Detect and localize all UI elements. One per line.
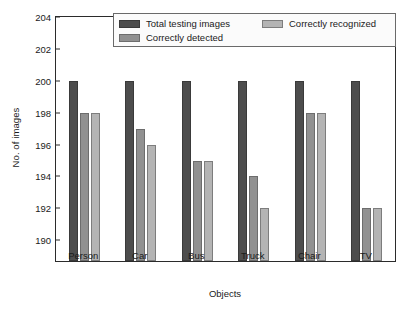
- legend-swatch-icon: [262, 20, 283, 28]
- y-axis-label: No. of images: [10, 83, 21, 193]
- bar: [182, 81, 191, 261]
- bar: [193, 161, 202, 261]
- bar: [125, 81, 134, 261]
- legend-label: Correctly detected: [146, 32, 223, 43]
- y-axis-tick-mark: [56, 144, 60, 145]
- y-axis-tick-label: 194: [35, 171, 51, 182]
- y-axis-tick-mark: [56, 208, 60, 209]
- y-axis-tick-label: 190: [35, 235, 51, 246]
- legend-label: Total testing images: [146, 18, 230, 29]
- y-axis-tick-label: 202: [35, 43, 51, 54]
- y-axis-tick-label: 200: [35, 75, 51, 86]
- x-axis-tick-label: Chair: [298, 250, 321, 261]
- bar: [373, 208, 382, 261]
- y-axis-tick-label: 196: [35, 139, 51, 150]
- bar: [295, 81, 304, 261]
- y-axis-tick-label: 192: [35, 203, 51, 214]
- x-axis-tick-label: Bus: [188, 250, 204, 261]
- x-axis-tick-label: Truck: [241, 250, 264, 261]
- y-axis-tick-mark: [56, 80, 60, 81]
- y-axis-tick-label: 198: [35, 107, 51, 118]
- legend-entry-correctly-detected: Correctly detected: [119, 32, 223, 43]
- x-axis-tick-label: Person: [68, 250, 98, 261]
- y-axis-tick-mark: [56, 112, 60, 113]
- y-axis-tick-mark: [56, 176, 60, 177]
- bar: [306, 113, 315, 261]
- x-axis-tick-label: Car: [132, 250, 147, 261]
- bar: [147, 145, 156, 261]
- legend-swatch-icon: [119, 20, 140, 28]
- x-axis-label: Objects: [55, 288, 395, 299]
- bar: [69, 81, 78, 261]
- chart-legend: Total testing images Correctly detected …: [113, 13, 396, 47]
- bar: [317, 113, 326, 261]
- bar: [204, 161, 213, 261]
- bar: [351, 81, 360, 261]
- bar: [80, 113, 89, 261]
- y-axis-tick-mark: [56, 17, 60, 18]
- y-axis-tick-mark: [56, 240, 60, 241]
- bar: [136, 129, 145, 261]
- legend-label: Correctly recognized: [289, 18, 376, 29]
- bar-chart-figure: No. of images Objects 190192194196198200…: [0, 0, 410, 309]
- plot-area: 190192194196198200202204: [55, 16, 396, 262]
- bar: [91, 113, 100, 261]
- bar: [249, 176, 258, 261]
- legend-entry-total-testing-images: Total testing images: [119, 18, 230, 29]
- x-axis-tick-label: TV: [360, 250, 372, 261]
- legend-entry-correctly-recognized: Correctly recognized: [262, 18, 376, 29]
- y-axis-tick-label: 204: [35, 12, 51, 23]
- legend-swatch-icon: [119, 34, 140, 42]
- y-axis-tick-mark: [56, 48, 60, 49]
- bar: [238, 81, 247, 261]
